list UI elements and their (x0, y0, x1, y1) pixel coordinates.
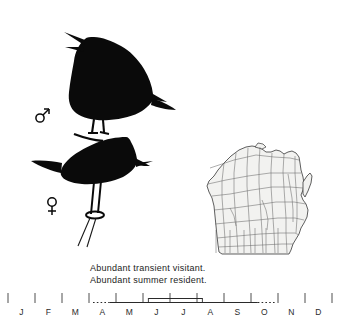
month-label-may: M (126, 307, 133, 317)
timeline-occurrence-bars (93, 298, 277, 303)
month-label-march: M (72, 307, 79, 317)
month-label-november: N (288, 307, 294, 317)
female-symbol-icon (48, 198, 56, 215)
timeline-chart: JFMAMJJASOND (0, 291, 340, 322)
caption-line-2: Abundant summer resident. (90, 275, 270, 287)
month-label-february: F (46, 307, 52, 317)
wisconsin-county-map (200, 140, 322, 262)
female-bird-silhouette (31, 137, 153, 247)
month-label-june: J (154, 307, 159, 317)
caption-line-1: Abundant transient visitant. (90, 263, 270, 275)
door-peninsula (303, 173, 312, 197)
status-caption: Abundant transient visitant. Abundant su… (90, 263, 270, 286)
bird-illustration (8, 6, 193, 251)
male-symbol-icon (36, 109, 49, 122)
male-bird-silhouette (64, 32, 176, 134)
month-label-october: O (261, 307, 268, 317)
species-account-page: Abundant transient visitant. Abundant su… (0, 0, 340, 322)
upper-perch-branch (74, 134, 103, 141)
timeline-month-labels: JFMAMJJASOND (19, 307, 322, 317)
month-label-july: J (181, 307, 186, 317)
month-label-january: J (19, 307, 24, 317)
month-label-april: A (100, 307, 106, 317)
month-label-september: S (235, 307, 241, 317)
month-label-december: D (315, 307, 321, 317)
month-label-august: A (208, 307, 214, 317)
occurrence-timeline: JFMAMJJASOND (0, 291, 340, 322)
